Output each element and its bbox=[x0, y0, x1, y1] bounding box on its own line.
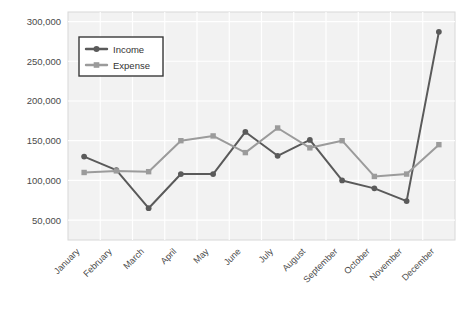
data-point-marker[interactable] bbox=[81, 154, 87, 160]
legend-entry-label[interactable]: Expense bbox=[113, 60, 150, 71]
data-point-marker[interactable] bbox=[210, 171, 216, 177]
data-point-marker[interactable] bbox=[275, 125, 280, 130]
data-point-marker[interactable] bbox=[81, 170, 86, 175]
data-point-marker[interactable] bbox=[307, 137, 313, 143]
data-point-marker[interactable] bbox=[372, 174, 377, 179]
x-tick-label: October bbox=[342, 246, 372, 276]
data-point-marker[interactable] bbox=[339, 138, 344, 143]
chart-legend[interactable]: IncomeExpense bbox=[79, 37, 163, 76]
y-tick-label: 150,000 bbox=[27, 135, 61, 146]
y-tick-label: 300,000 bbox=[27, 16, 61, 27]
data-point-marker[interactable] bbox=[242, 129, 248, 135]
data-point-marker[interactable] bbox=[114, 168, 119, 173]
data-point-marker[interactable] bbox=[243, 150, 248, 155]
x-tick-label: June bbox=[222, 246, 243, 267]
legend-marker-square-icon bbox=[94, 62, 100, 68]
x-tick-label: July bbox=[257, 246, 276, 265]
data-point-marker[interactable] bbox=[146, 169, 151, 174]
data-point-marker[interactable] bbox=[404, 171, 409, 176]
data-point-marker[interactable] bbox=[436, 142, 441, 147]
x-tick-label: May bbox=[191, 246, 210, 265]
legend-marker-circle-icon bbox=[94, 46, 100, 52]
x-tick-label: August bbox=[280, 246, 307, 273]
data-point-marker[interactable] bbox=[178, 171, 184, 177]
y-tick-label: 200,000 bbox=[27, 95, 61, 106]
x-axis-tick-labels: JanuaryFebruaryMarchAprilMayJuneJulyAugu… bbox=[52, 246, 436, 285]
x-tick-label: March bbox=[121, 246, 146, 271]
x-tick-label: April bbox=[158, 246, 178, 266]
data-point-marker[interactable] bbox=[371, 185, 377, 191]
legend-entry-label[interactable]: Income bbox=[113, 44, 144, 55]
y-tick-label: 250,000 bbox=[27, 56, 61, 67]
x-tick-label: February bbox=[81, 246, 114, 279]
data-point-marker[interactable] bbox=[275, 153, 281, 159]
y-tick-label: 100,000 bbox=[27, 175, 61, 186]
data-point-marker[interactable] bbox=[307, 145, 312, 150]
line-chart-container: 50,000100,000150,000200,000250,000300,00… bbox=[0, 0, 476, 310]
y-tick-label: 50,000 bbox=[32, 215, 61, 226]
data-point-marker[interactable] bbox=[339, 178, 345, 184]
data-point-marker[interactable] bbox=[210, 133, 215, 138]
x-tick-label: December bbox=[400, 246, 436, 282]
data-point-marker[interactable] bbox=[178, 138, 183, 143]
data-point-marker[interactable] bbox=[436, 29, 442, 35]
chart-canvas: 50,000100,000150,000200,000250,000300,00… bbox=[0, 0, 476, 310]
data-point-marker[interactable] bbox=[404, 198, 410, 204]
x-tick-label: September bbox=[301, 246, 339, 284]
x-tick-label: November bbox=[368, 246, 404, 282]
data-point-marker[interactable] bbox=[146, 205, 152, 211]
y-axis-tick-labels: 50,000100,000150,000200,000250,000300,00… bbox=[27, 16, 61, 226]
x-tick-label: January bbox=[52, 246, 82, 276]
